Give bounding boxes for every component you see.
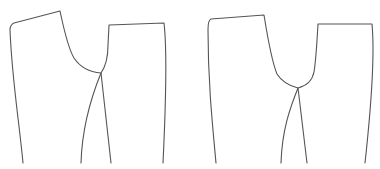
right-back-piece-outline (281, 24, 373, 163)
pattern-left (10, 11, 166, 163)
pattern-right (208, 15, 373, 163)
pattern-diagram (0, 0, 380, 169)
right-front-piece-outline (208, 15, 307, 163)
left-back-piece-outline (81, 23, 166, 163)
